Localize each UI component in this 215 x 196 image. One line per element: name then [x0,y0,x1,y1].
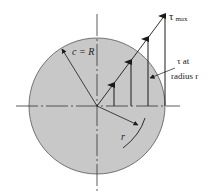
tau-at-label: τ at [177,56,190,66]
r-label: r [121,131,125,142]
radius-r-label: radius r [171,71,198,81]
c-equals-r-label: c = R [72,46,94,57]
tau-max-label: τmax [169,10,188,23]
shear-stress-diagram: τmax τ at radius r c = R r [0,0,215,196]
